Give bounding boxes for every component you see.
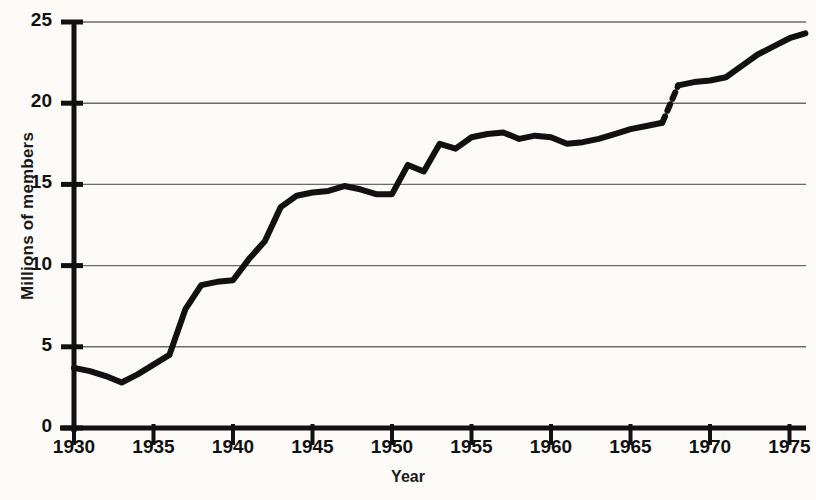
plot-area	[0, 0, 816, 500]
data-line-segment-2	[678, 33, 805, 85]
data-line-segment-0	[74, 123, 662, 383]
chart-figure: Millions of members Year 0510152025 1930…	[0, 0, 816, 500]
series-break-dashed	[662, 85, 678, 122]
